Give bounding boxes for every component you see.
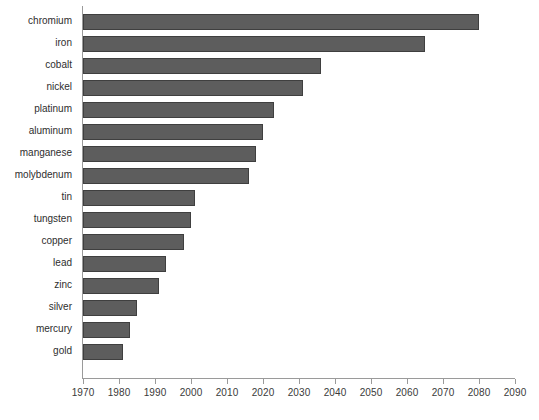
bar (83, 102, 274, 118)
category-label: mercury (36, 321, 72, 337)
category-label: chromium (28, 13, 72, 29)
category-label: zinc (54, 277, 72, 293)
x-axis-tick (299, 379, 300, 384)
bar (83, 14, 479, 30)
x-axis-tick (335, 379, 336, 384)
category-label: molybdenum (15, 167, 72, 183)
bar (83, 300, 137, 316)
bar-chart: chromiumironcobaltnickelplatinumaluminum… (0, 0, 539, 420)
bar (83, 234, 184, 250)
x-axis-tick (263, 379, 264, 384)
bar (83, 80, 303, 96)
category-label: lead (53, 255, 72, 271)
bar-row: zinc (83, 275, 515, 297)
bar-row: platinum (83, 99, 515, 121)
bar-row: manganese (83, 143, 515, 165)
x-axis-tick (371, 379, 372, 384)
bar (83, 36, 425, 52)
bar-row: tin (83, 187, 515, 209)
plot-area: chromiumironcobaltnickelplatinumaluminum… (83, 6, 515, 378)
category-label: tungsten (34, 211, 72, 227)
bar (83, 322, 130, 338)
x-axis-tick (407, 379, 408, 384)
bar-row: nickel (83, 77, 515, 99)
x-axis-tick (83, 379, 84, 384)
category-label: platinum (34, 101, 72, 117)
bar-row: cobalt (83, 55, 515, 77)
bar (83, 190, 195, 206)
category-label: iron (55, 35, 72, 51)
category-label: nickel (46, 79, 72, 95)
x-axis-tick (155, 379, 156, 384)
category-label: cobalt (45, 57, 72, 73)
category-label: tin (61, 189, 72, 205)
bar-row: tungsten (83, 209, 515, 231)
x-axis-tick (227, 379, 228, 384)
x-axis-tick (443, 379, 444, 384)
bar (83, 278, 159, 294)
bar-row: lead (83, 253, 515, 275)
bar (83, 146, 256, 162)
bar (83, 344, 123, 360)
bar (83, 256, 166, 272)
bar (83, 124, 263, 140)
x-axis-tick (191, 379, 192, 384)
bar (83, 212, 191, 228)
bar (83, 168, 249, 184)
bar-row: chromium (83, 11, 515, 33)
x-axis-tick (119, 379, 120, 384)
x-axis-tick (515, 379, 516, 384)
bar-row: gold (83, 341, 515, 363)
bar-row: aluminum (83, 121, 515, 143)
category-label: gold (53, 343, 72, 359)
bar-row: silver (83, 297, 515, 319)
bar-row: molybdenum (83, 165, 515, 187)
bar (83, 58, 321, 74)
category-label: aluminum (29, 123, 72, 139)
category-label: manganese (20, 145, 72, 161)
x-axis-tick (479, 379, 480, 384)
x-axis-tick-label: 2090 (493, 387, 537, 398)
category-label: silver (49, 299, 72, 315)
bar-row: copper (83, 231, 515, 253)
bar-row: iron (83, 33, 515, 55)
category-label: copper (41, 233, 72, 249)
bar-row: mercury (83, 319, 515, 341)
